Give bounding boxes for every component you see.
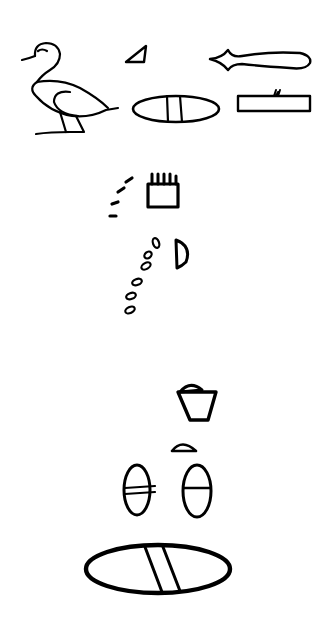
seed-arc-icon — [124, 237, 160, 315]
leaf-blade-icon — [210, 50, 310, 70]
hieroglyph-drawing — [0, 0, 329, 630]
duck-icon — [22, 43, 118, 134]
small-dome-icon — [172, 445, 196, 452]
comb-box-icon — [148, 174, 178, 207]
large-oval-icon — [86, 545, 230, 593]
oval-double-bar-icon — [124, 465, 155, 515]
dash-arc-icon — [110, 178, 132, 216]
oval-single-bar-icon — [183, 465, 211, 517]
bar-tuft-icon — [238, 90, 310, 111]
basket-icon — [178, 385, 216, 420]
half-moon-icon — [176, 240, 188, 268]
oval-two-lines-icon — [133, 96, 219, 122]
triangle-icon — [126, 46, 146, 62]
drawing-svg — [0, 0, 329, 630]
